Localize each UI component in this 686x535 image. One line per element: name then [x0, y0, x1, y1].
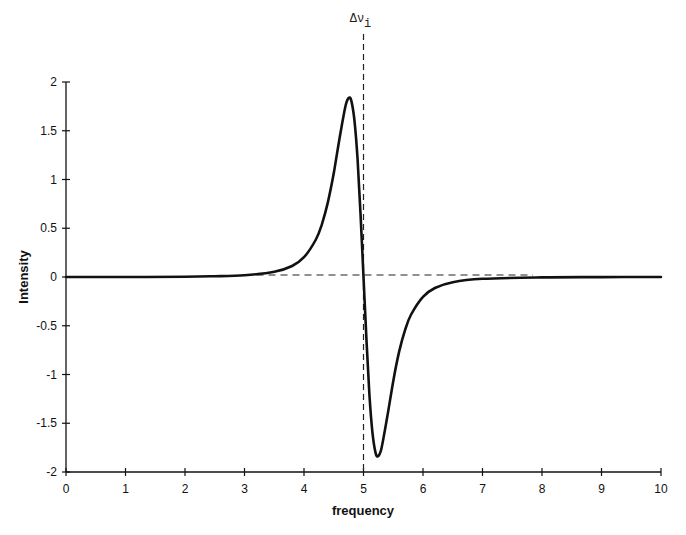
annotation-delta-nu: Δνi [350, 12, 372, 31]
annotation-main: Δν [350, 12, 364, 26]
y-tick-label: 0.5 [40, 221, 57, 235]
x-tick-label: 3 [241, 482, 248, 496]
y-tick-label: 2 [50, 75, 57, 89]
x-axis: 012345678910 [63, 468, 668, 496]
y-tick-label: -1.5 [36, 416, 57, 430]
x-tick-label: 2 [182, 482, 189, 496]
x-tick-label: 7 [479, 482, 486, 496]
annotation-sub: i [364, 17, 371, 31]
y-tick-label: -0.5 [36, 319, 57, 333]
y-axis-title: Intensity [16, 250, 31, 304]
signal-curve [66, 97, 661, 456]
x-tick-label: 9 [598, 482, 605, 496]
chart: 21.510.50-0.5-1-1.5-2 012345678910 Δνi f… [0, 0, 686, 535]
x-tick-label: 10 [654, 482, 668, 496]
x-tick-label: 1 [122, 482, 129, 496]
y-tick-label: 1 [50, 173, 57, 187]
y-tick-label: 1.5 [40, 124, 57, 138]
y-tick-label: -2 [46, 465, 57, 479]
y-tick-label: -1 [46, 368, 57, 382]
x-tick-label: 8 [539, 482, 546, 496]
x-axis-title: frequency [332, 503, 395, 518]
x-tick-label: 5 [360, 482, 367, 496]
x-tick-label: 4 [301, 482, 308, 496]
y-tick-label: 0 [50, 270, 57, 284]
x-tick-label: 6 [420, 482, 427, 496]
x-tick-label: 0 [63, 482, 70, 496]
